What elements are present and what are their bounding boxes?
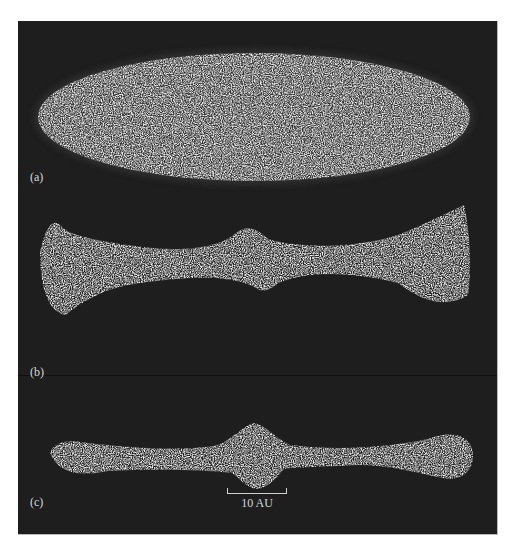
panel-a-ellipse [34,49,474,185]
particle-distribution-plot [18,21,497,534]
panel-label-c: (c) [30,496,43,508]
scale-bar [227,488,287,494]
panel-label-b: (b) [30,366,44,378]
scale-bar-label: 10 AU [225,497,289,509]
panel-c-bone [50,423,473,489]
panel-label-a: (a) [30,171,43,183]
figure-frame: (a) (b) (c) 10 AU [18,21,498,535]
panel-separator [18,375,497,376]
panel-b-bone [40,205,470,315]
